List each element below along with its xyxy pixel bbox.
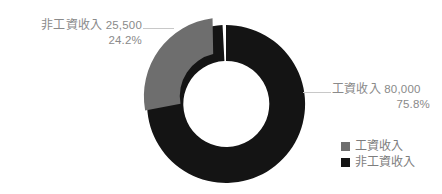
callout-left-value: 25,500 <box>106 19 142 31</box>
callout-salary-income: 工資收入 80,000 75.8% <box>332 82 432 112</box>
legend-swatch-salary-income <box>341 142 350 151</box>
legend-label-nonsalary-income: 非工資收入 <box>355 155 415 169</box>
callout-right-value: 80,000 <box>384 83 420 95</box>
legend-item-nonsalary-income[interactable]: 非工資收入 <box>341 155 415 169</box>
legend-item-salary-income[interactable]: 工資收入 <box>341 139 415 153</box>
legend-swatch-nonsalary-income <box>341 158 350 167</box>
legend-label-salary-income: 工資收入 <box>355 139 403 153</box>
chart-legend: 工資收入 非工資收入 <box>341 139 415 169</box>
callout-nonsalary-income: 非工資收入 25,500 24.2% <box>10 18 142 48</box>
callout-left-category: 非工資收入 <box>41 18 102 32</box>
callout-right-category: 工資收入 <box>332 82 381 96</box>
callout-left-percent: 24.2% <box>10 33 142 48</box>
callout-right-percent: 75.8% <box>332 97 430 112</box>
donut-chart: 非工資收入 25,500 24.2% 工資收入 80,000 75.8% 工資收… <box>0 0 442 194</box>
